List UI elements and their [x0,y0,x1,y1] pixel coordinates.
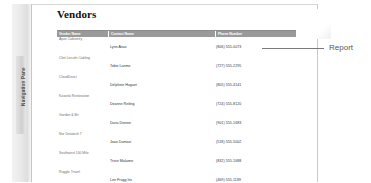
group-vendor-name: Southwest 100 Mile [59,151,89,155]
cell-phone-number: (724) 555-8120 [214,102,294,107]
cell-contact-name: Daria Dienne [108,121,214,126]
report-content: Vendors Vendor Name Contact Name Phone N… [44,4,306,182]
group-vendor-name: CloudDirect [59,75,77,79]
report-preview-screen: Navigation Pane Vendors Vendor Name Cont… [0,0,371,182]
group-vendor-name: Apex Cabinetry [59,37,82,41]
callout-label-report: Report [329,43,353,52]
table-row[interactable]: Joao Damasi (518) 555-5002 [57,140,296,152]
table-row[interactable]: Trixie Malaime (832) 555-1688 [57,159,296,171]
group-header: Nor Datatech T [57,132,296,140]
navigation-pane-label: Navigation Pane [21,42,26,132]
cell-phone-number: (901) 555-1683 [214,121,294,126]
vendors-table: Vendor Name Contact Name Phone Number Ap… [57,30,296,182]
group-header: Gordon & Bit [57,113,296,121]
cell-contact-name: Deanne Reiling [108,102,214,107]
cell-contact-name: Tobie Lanme [108,64,214,69]
page-corner [313,9,331,39]
table-row[interactable]: Tobie Lanme (727) 555-2295 [57,64,296,76]
cell-contact-name: Trixie Malaime [108,159,214,164]
group-header: Southwest 100 Mile [57,151,296,159]
cell-phone-number: (518) 555-5002 [214,140,294,145]
group-header: Apex Cabinetry [57,37,296,45]
navigation-pane[interactable]: Navigation Pane [12,4,32,182]
cell-phone-number: (805) 555-4141 [214,83,294,88]
table-row[interactable]: Daria Dienne (901) 555-1683 [57,121,296,133]
group-header: Ruggle Travel [57,170,296,178]
table-row[interactable]: Lee Frugg Iris (469) 555-1189 [57,178,296,183]
page-title: Vendors [57,8,96,20]
group-vendor-name: Kasoski Restoration [59,94,89,98]
group-header: CloudDirect [57,75,296,83]
table-row[interactable]: Delphine Huguet (805) 555-4141 [57,83,296,95]
cell-contact-name: Lee Frugg Iris [108,178,214,183]
group-header: Kasoski Restoration [57,94,296,102]
callout-leader-line [262,48,324,49]
cell-phone-number: (469) 555-1189 [214,178,294,183]
cell-contact-name: Lynn Arias [108,45,214,50]
cell-phone-number: (727) 555-2295 [214,64,294,69]
table-row[interactable]: Deanne Reiling (724) 555-8120 [57,102,296,114]
table-row[interactable]: Lynn Arias (806) 555-0073 [57,45,296,57]
group-vendor-name: Clint Lincoln Cabling [59,56,90,60]
cell-contact-name: Delphine Huguet [108,83,214,88]
group-header: Clint Lincoln Cabling [57,56,296,64]
group-vendor-name: Nor Datatech T [59,132,82,136]
cell-contact-name: Joao Damasi [108,140,214,145]
table-header-row: Vendor Name Contact Name Phone Number [57,30,296,37]
cell-phone-number: (832) 555-1688 [214,159,294,164]
group-vendor-name: Gordon & Bit [59,113,78,117]
group-vendor-name: Ruggle Travel [59,170,80,174]
